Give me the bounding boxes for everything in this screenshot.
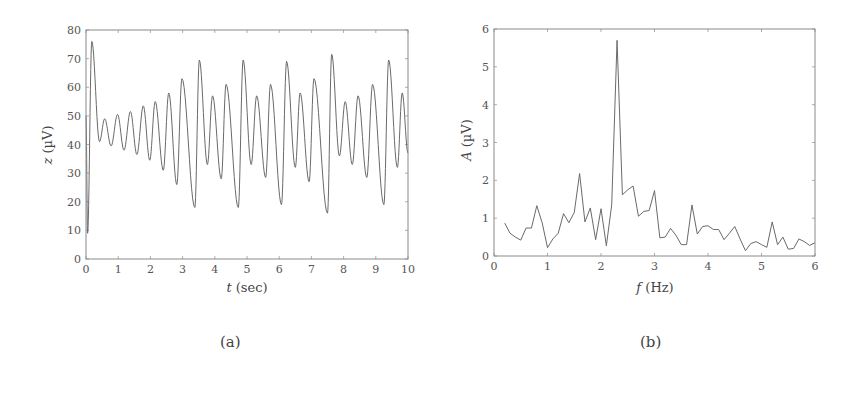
x-tick-label: 3 — [179, 263, 186, 276]
x-tick-label: 2 — [598, 260, 605, 273]
x-tick-label: 5 — [758, 260, 765, 273]
y-tick-label: 10 — [67, 224, 81, 237]
y-tick-label: 50 — [67, 110, 81, 123]
y-tick-label: 80 — [67, 24, 81, 37]
time-series-chart: 01234567891001020304050607080 t (sec) z … — [0, 0, 430, 320]
x-tick-label: 9 — [372, 263, 379, 276]
y-tick-label: 0 — [482, 250, 489, 263]
plot-frame — [86, 30, 408, 259]
caption-b: (b) — [640, 333, 661, 351]
y-tick-label: 20 — [67, 196, 81, 209]
x-tick-label: 2 — [147, 263, 154, 276]
y-tick-label: 1 — [482, 212, 489, 225]
x-tick-label: 10 — [401, 263, 415, 276]
y-tick-label: 6 — [482, 23, 489, 36]
x-tick-label: 0 — [83, 263, 90, 276]
y-tick-label: 40 — [67, 139, 81, 152]
y-axis-label: A (µV) — [459, 119, 474, 162]
y-tick-label: 70 — [67, 53, 81, 66]
y-tick-label: 30 — [67, 167, 81, 180]
y-tick-label: 3 — [482, 137, 489, 150]
x-tick-label: 6 — [276, 263, 283, 276]
x-axis-label: f (Hz) — [635, 280, 673, 295]
caption-a: (a) — [220, 333, 241, 351]
x-tick-label: 4 — [705, 260, 712, 273]
y-tick-label: 2 — [482, 174, 489, 187]
y-axis-label: z (µV) — [40, 126, 55, 166]
x-tick-label: 7 — [308, 263, 315, 276]
tick-labels: 01234560123456 — [482, 23, 819, 273]
x-tick-label: 1 — [115, 263, 122, 276]
tick-labels: 01234567891001020304050607080 — [67, 24, 415, 276]
x-tick-label: 5 — [244, 263, 251, 276]
y-tick-label: 60 — [67, 81, 81, 94]
axis-ticks — [86, 30, 408, 259]
x-tick-label: 1 — [544, 260, 551, 273]
y-tick-label: 4 — [482, 99, 489, 112]
chart-panel-a: 01234567891001020304050607080 t (sec) z … — [0, 0, 430, 401]
x-tick-label: 0 — [491, 260, 498, 273]
x-tick-label: 6 — [812, 260, 819, 273]
y-tick-label: 0 — [74, 253, 81, 266]
x-tick-label: 4 — [211, 263, 218, 276]
x-tick-label: 8 — [340, 263, 347, 276]
y-tick-label: 5 — [482, 61, 489, 74]
spectrum-chart: 01234560123456 f (Hz) A (µV) — [430, 0, 854, 320]
x-tick-label: 3 — [651, 260, 658, 273]
signal-line — [86, 41, 408, 233]
spectrum-line — [505, 40, 815, 250]
x-axis-label: t (sec) — [226, 280, 267, 295]
chart-panel-b: 01234560123456 f (Hz) A (µV) (b) — [430, 0, 854, 401]
